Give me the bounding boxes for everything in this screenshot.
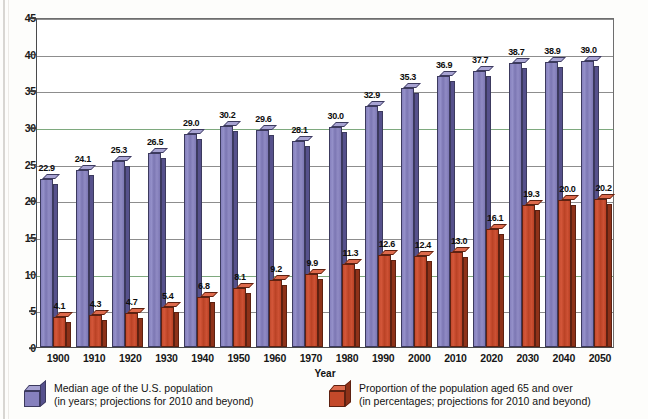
purple-cube-icon — [24, 385, 46, 407]
bar-face — [450, 252, 463, 347]
legend-cube-side — [345, 380, 351, 407]
bar-group: 29.69.2 — [254, 19, 290, 347]
bar-face — [220, 126, 233, 347]
x-axis-tick-label: 1970 — [300, 352, 323, 364]
bar-top — [272, 275, 290, 280]
bar-median-age — [581, 61, 594, 347]
bar-group: 28.19.9 — [290, 19, 326, 347]
bar-median-age — [112, 161, 125, 347]
bar-face — [233, 288, 246, 347]
bar-median-age — [76, 170, 89, 347]
x-axis-tick-label: 1980 — [336, 352, 359, 364]
bar-top — [187, 129, 205, 134]
bar-face — [89, 315, 102, 347]
bar-value-label: 13.0 — [451, 237, 467, 246]
bar-value-label: 24.1 — [75, 155, 91, 164]
bar-top — [42, 174, 60, 179]
bar-proportion-65-plus — [161, 307, 174, 347]
bar-group: 37.716.1 — [471, 19, 507, 347]
bar-group: 25.34.7 — [109, 19, 145, 347]
bar-median-age — [256, 130, 269, 347]
y-axis-tick-mark — [29, 201, 36, 203]
red-cube-icon — [329, 385, 351, 407]
bar-top — [223, 121, 241, 126]
legend-item: Proportion of the population aged 65 and… — [329, 382, 591, 408]
bar-top — [308, 269, 326, 274]
x-axis-title: Year — [36, 368, 614, 379]
bar-face — [76, 170, 89, 347]
bar-value-label: 20.2 — [595, 184, 611, 193]
bar-value-label: 38.7 — [508, 48, 524, 57]
x-axis-tick-label: 2040 — [553, 352, 576, 364]
bar-median-age — [509, 63, 522, 347]
bar-group: 29.06.8 — [182, 19, 218, 347]
bar-value-label: 9.9 — [306, 259, 318, 268]
bar-top — [489, 224, 507, 229]
bar-top — [380, 250, 398, 255]
bar-face — [197, 297, 210, 347]
bar-face — [401, 88, 414, 347]
bar-proportion-65-plus — [378, 255, 391, 347]
x-axis-labels: 1900191019201930194019501960197019801990… — [36, 352, 614, 368]
bar-face — [558, 200, 571, 347]
x-axis-tick-label: 2030 — [516, 352, 539, 364]
bar-median-age — [40, 179, 53, 347]
bar-side — [571, 205, 576, 347]
bar-face — [414, 256, 427, 347]
y-axis-tick-mark — [29, 311, 36, 313]
bar-top — [584, 56, 602, 61]
bar-value-label: 5.4 — [162, 292, 174, 301]
legend-label-line2: (in years; projections for 2010 and beyo… — [54, 395, 254, 408]
bar-top — [512, 58, 530, 63]
bar-value-label: 19.3 — [523, 190, 539, 199]
y-axis-tick-mark — [29, 17, 36, 19]
bar-side — [318, 279, 323, 347]
x-axis-tick-label: 1900 — [47, 352, 70, 364]
legend-item: Median age of the U.S. population(in yea… — [24, 382, 254, 408]
bar-top — [259, 125, 277, 130]
bar-proportion-65-plus — [53, 317, 66, 347]
bar-group: 30.28.1 — [218, 19, 254, 347]
bar-side — [427, 261, 432, 347]
bar-face — [437, 76, 450, 347]
bar-side — [210, 302, 215, 347]
bar-group: 26.55.4 — [145, 19, 181, 347]
bar-face — [305, 274, 318, 347]
bar-face — [53, 317, 66, 347]
bar-face — [594, 199, 607, 347]
bar-top — [403, 83, 421, 88]
y-axis-tick-mark — [29, 54, 36, 56]
bar-value-label: 36.9 — [436, 61, 452, 70]
bar-side — [463, 257, 468, 347]
bar-proportion-65-plus — [342, 264, 355, 347]
bar-top — [91, 310, 109, 315]
bar-median-age — [329, 127, 342, 347]
bar-top — [150, 148, 168, 153]
bar-top — [344, 259, 362, 264]
legend-label-line2: (in percentages; projections for 2010 an… — [359, 395, 591, 408]
bar-top — [163, 302, 181, 307]
bar-value-label: 6.8 — [198, 282, 210, 291]
x-axis-tick-label: 1930 — [155, 352, 178, 364]
bar-value-label: 12.4 — [415, 241, 431, 250]
bar-proportion-65-plus — [269, 280, 282, 347]
bar-group: 35.312.4 — [398, 19, 434, 347]
legend-label: Proportion of the population aged 65 and… — [359, 382, 591, 408]
bar-value-label: 8.1 — [234, 273, 246, 282]
bar-proportion-65-plus — [522, 205, 535, 347]
x-axis-tick-label: 2010 — [444, 352, 467, 364]
x-axis-tick-label: 1990 — [372, 352, 395, 364]
legend-cube-side — [40, 380, 46, 407]
x-axis-tick-label: 2020 — [480, 352, 503, 364]
bar-median-age — [184, 134, 197, 347]
bar-side — [391, 260, 396, 347]
bar-group: 36.913.0 — [434, 19, 470, 347]
bar-side — [535, 210, 540, 347]
bar-side — [499, 234, 504, 347]
bar-value-label: 4.1 — [54, 302, 66, 311]
bar-top — [55, 312, 73, 317]
bar-top — [114, 156, 132, 161]
bar-value-label: 30.2 — [219, 111, 235, 120]
bar-side — [607, 204, 612, 347]
bar-value-label: 32.9 — [364, 91, 380, 100]
